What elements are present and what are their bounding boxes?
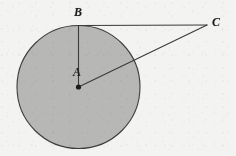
vertex-label-a: A bbox=[73, 66, 81, 78]
vertex-label-b: B bbox=[74, 6, 82, 18]
segment-bc bbox=[79, 25, 208, 26]
vertex-label-c: C bbox=[212, 16, 220, 28]
center-point-dot bbox=[76, 84, 81, 89]
figure-canvas bbox=[0, 0, 236, 156]
geometry-figure: A B C bbox=[0, 0, 236, 156]
